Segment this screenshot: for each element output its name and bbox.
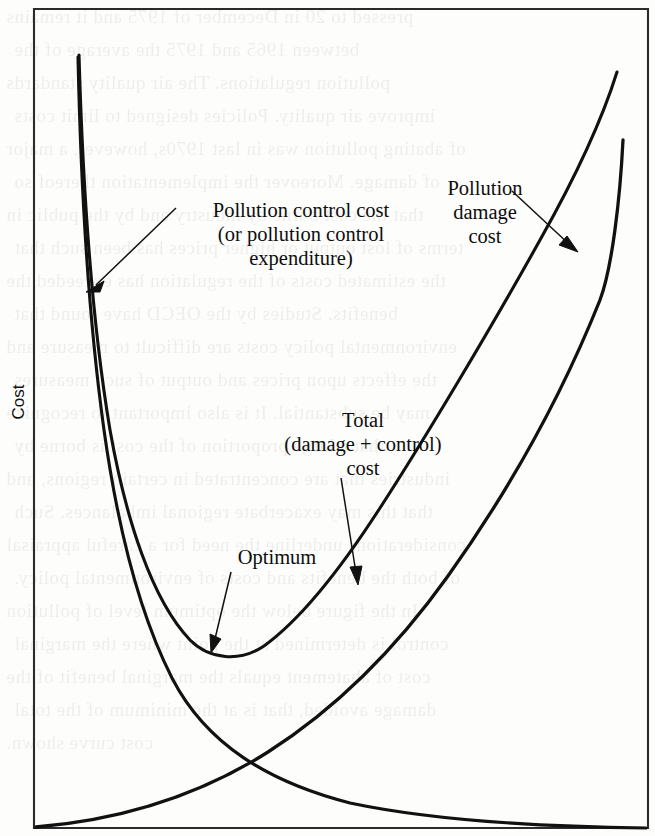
annotation-damage-cost: Pollution damage cost (425, 176, 545, 249)
y-axis-label: Cost (9, 367, 29, 437)
annotation-total-cost-line2: (damage + control) (258, 432, 468, 456)
annotation-control-cost: Pollution control cost (or pollution con… (176, 198, 426, 271)
annotation-control-cost-line2: (or pollution control (176, 222, 426, 246)
figure-page: pressed to 20 in December of 1975 and it… (0, 0, 655, 836)
annotation-optimum: Optimum (222, 545, 332, 569)
annotation-total-cost-line3: cost (258, 456, 468, 480)
control-cost-arrow (86, 208, 176, 292)
total-cost-arrow (341, 478, 362, 585)
annotation-control-cost-line3: expenditure) (176, 246, 426, 270)
annotation-damage-cost-line3: cost (425, 224, 545, 248)
annotation-control-cost-line1: Pollution control cost (176, 198, 426, 222)
annotation-damage-cost-line2: damage (425, 200, 545, 224)
annotation-total-cost: Total (damage + control) cost (258, 408, 468, 481)
total-cost-curve (79, 55, 617, 657)
annotation-total-cost-line1: Total (258, 408, 468, 432)
annotation-damage-cost-line1: Pollution (425, 176, 545, 200)
optimum-arrow (210, 572, 231, 653)
